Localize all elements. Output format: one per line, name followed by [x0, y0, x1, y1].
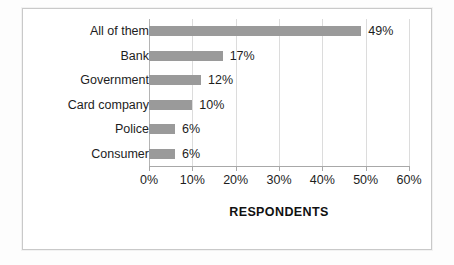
x-tick-label: 30% — [257, 173, 301, 187]
category-label: Police — [115, 117, 149, 142]
bar[interactable] — [149, 75, 201, 85]
x-tick-label: 40% — [300, 173, 344, 187]
x-tick — [279, 166, 280, 171]
chart-frame: All of themBankGovernmentCard companyPol… — [22, 8, 432, 250]
bar-value-label: 49% — [368, 21, 393, 41]
x-tick-label: 0% — [127, 173, 171, 187]
figure: All of themBankGovernmentCard companyPol… — [0, 0, 454, 265]
category-label: Government — [80, 68, 149, 93]
bar-value-label: 10% — [199, 95, 224, 115]
bar[interactable] — [149, 26, 361, 36]
bar-row: 10% — [149, 93, 409, 118]
bar-row: 6% — [149, 117, 409, 142]
category-label: All of them — [90, 19, 149, 44]
x-axis-title: RESPONDENTS — [149, 205, 409, 219]
x-axis-ticks — [149, 166, 409, 171]
category-label: Card company — [68, 93, 149, 118]
x-axis-tick-labels: 0%10%20%30%40%50%60% — [149, 173, 409, 193]
bar-row: 6% — [149, 142, 409, 167]
bar-value-label: 6% — [182, 119, 200, 139]
x-tick — [366, 166, 367, 171]
category-axis-labels: All of themBankGovernmentCard companyPol… — [29, 19, 149, 166]
category-label: Consumer — [91, 142, 149, 167]
x-tick — [322, 166, 323, 171]
bar-value-label: 12% — [208, 70, 233, 90]
bar-value-label: 17% — [230, 46, 255, 66]
category-label: Bank — [121, 44, 150, 69]
x-tick-label: 60% — [387, 173, 431, 187]
x-tick-label: 20% — [214, 173, 258, 187]
x-tick — [236, 166, 237, 171]
x-tick-label: 50% — [344, 173, 388, 187]
x-tick — [409, 166, 410, 171]
x-tick — [192, 166, 193, 171]
x-tick-label: 10% — [170, 173, 214, 187]
bar-value-label: 6% — [182, 144, 200, 164]
gridline-60% — [409, 19, 410, 166]
bar-row: 17% — [149, 44, 409, 69]
bar[interactable] — [149, 100, 192, 110]
bar-row: 49% — [149, 19, 409, 44]
bar[interactable] — [149, 124, 175, 134]
plot-area: 49%17%12%10%6%6% — [149, 19, 409, 166]
bar-row: 12% — [149, 68, 409, 93]
x-tick — [149, 166, 150, 171]
bar[interactable] — [149, 51, 223, 61]
bar[interactable] — [149, 149, 175, 159]
